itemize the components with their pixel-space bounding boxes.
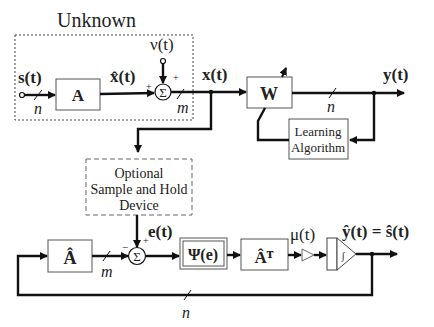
mixing-block-label: A — [72, 86, 85, 105]
output-dim-label: n — [327, 98, 335, 115]
plus-sign: + — [146, 81, 152, 92]
learning-label-line2: Algorithm — [291, 140, 345, 155]
observed-branch-wire — [138, 92, 211, 152]
source-dim-label: n — [34, 100, 42, 117]
estimate-transpose-label: Âᵀ — [255, 248, 274, 267]
sample-label-line2: Sample and Hold — [90, 182, 187, 197]
minus-sign: − — [122, 241, 128, 253]
source-terminal-icon — [20, 93, 25, 98]
step-label: μ(t) — [290, 225, 315, 244]
integrator-triangle-icon — [337, 238, 356, 270]
output-label: y(t) — [383, 65, 408, 84]
estimate-label: ŷ(t) = ŝ(t) — [342, 222, 409, 241]
learning-update-wire — [258, 108, 289, 140]
source-label: s(t) — [18, 68, 42, 87]
nonlinearity-label: Ψ(e) — [188, 246, 218, 264]
sample-label-line1: Optional — [115, 166, 164, 181]
estimate-mixing-label: Â — [64, 247, 77, 268]
feedback-dim-label: n — [182, 304, 190, 321]
learning-feedback-wire — [350, 93, 374, 140]
sum-symbol: Σ — [133, 249, 141, 264]
noise-label: ν(t) — [150, 35, 174, 54]
mixed-wire — [100, 93, 154, 94]
unknown-title: Unknown — [57, 9, 136, 31]
gain-triangle-icon — [302, 249, 314, 261]
separating-block-label: W — [260, 84, 278, 104]
error-label: e(t) — [148, 222, 173, 241]
blind-source-separation-diagram: Unknown s(t) n A x̂(t) + ν(t) + Σ m x(t)… — [0, 0, 434, 327]
adaptive-arrow-icon — [282, 68, 286, 77]
plus-sign: + — [173, 72, 179, 83]
sum-symbol: Σ — [159, 85, 167, 100]
error-dim-label: m — [101, 263, 113, 280]
learning-label-line1: Learning — [295, 124, 342, 139]
mixed-clean-label: x̂(t) — [110, 67, 135, 86]
integrator-block — [327, 238, 337, 270]
noise-terminal-icon — [161, 59, 166, 64]
sample-label-line3: Device — [119, 198, 159, 213]
bus-slash-icon — [177, 89, 184, 99]
observed-label: x(t) — [202, 65, 227, 84]
sensor-dim-label: m — [177, 99, 189, 116]
